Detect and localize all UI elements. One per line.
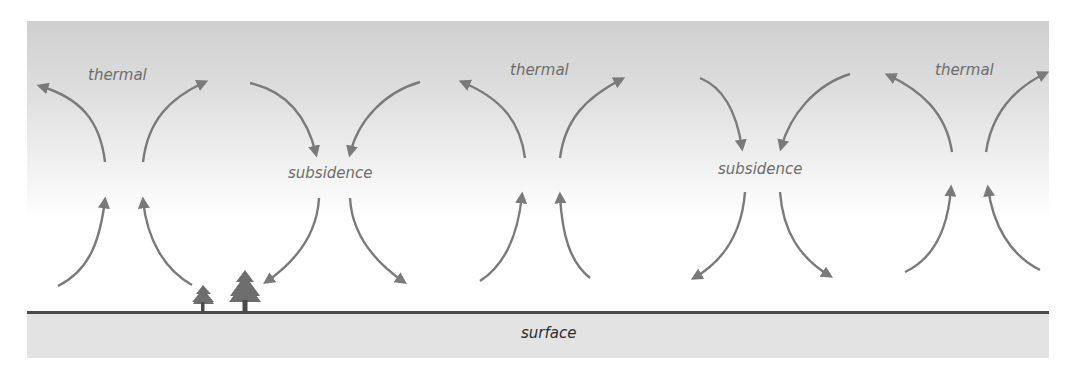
subsidence-label-2: subsidence — [718, 160, 803, 178]
subsidence-1-upper-right-arrow — [350, 82, 420, 154]
subsidence-1-lower-left-arrow — [266, 198, 319, 282]
subsidence-label-1: subsidence — [288, 164, 373, 182]
thermal-1-lower-right-arrow — [143, 200, 192, 285]
small-tree-icon — [192, 285, 214, 312]
thermal-1-lower-left-arrow — [58, 200, 105, 286]
thermal-label-3: thermal — [935, 61, 994, 79]
subsidence-2-lower-right-arrow — [780, 192, 830, 276]
thermal-label-1: thermal — [88, 66, 147, 84]
thermal-2-upper-left-arrow — [462, 82, 525, 158]
subsidence-2-upper-left-arrow — [700, 78, 742, 148]
thermal-2-lower-right-arrow — [560, 195, 590, 278]
thermal-3-lower-right-arrow — [988, 188, 1040, 270]
circulation-arrows — [0, 0, 1072, 373]
thermal-1-upper-left-arrow — [40, 86, 105, 162]
thermal-2-lower-left-arrow — [480, 195, 522, 281]
thermal-3-lower-left-arrow — [905, 188, 951, 272]
subsidence-1-lower-right-arrow — [350, 198, 404, 282]
subsidence-2-upper-right-arrow — [781, 74, 850, 148]
surface-label: surface — [521, 324, 576, 342]
thermal-3-upper-right-arrow — [986, 73, 1046, 152]
thermal-label-2: thermal — [510, 61, 569, 79]
subsidence-1-upper-left-arrow — [250, 83, 316, 154]
thermal-2-upper-right-arrow — [560, 79, 622, 158]
thermal-1-upper-right-arrow — [143, 82, 205, 162]
trees — [192, 270, 261, 312]
subsidence-2-lower-left-arrow — [694, 192, 745, 278]
large-tree-icon — [229, 270, 261, 312]
thermal-3-upper-left-arrow — [888, 75, 952, 152]
